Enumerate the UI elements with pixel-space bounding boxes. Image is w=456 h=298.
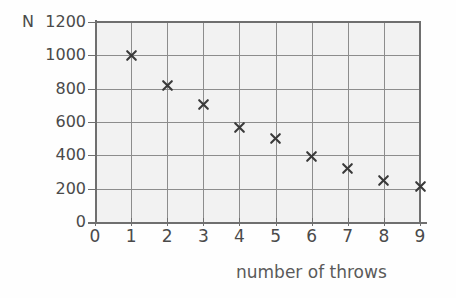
- gridline-horizontal: [95, 189, 420, 190]
- gridline-vertical: [384, 22, 385, 222]
- y-axis-tick: [88, 55, 96, 56]
- x-axis-tick: [167, 218, 168, 226]
- gridline-horizontal: [95, 122, 420, 123]
- x-axis-tick-label: 0: [83, 228, 107, 245]
- data-point-marker: [305, 150, 318, 163]
- plot-frame-top: [95, 21, 421, 23]
- x-axis-tick-label: 8: [372, 228, 396, 245]
- gridline-vertical: [312, 22, 313, 222]
- gridline-horizontal: [95, 155, 420, 156]
- x-axis-tick-label: 1: [119, 228, 143, 245]
- y-axis-tick-label: 800: [26, 81, 86, 97]
- x-axis-tick: [131, 218, 132, 226]
- x-axis-tick-label: 5: [264, 228, 288, 245]
- gridline-vertical: [167, 22, 168, 222]
- plot-area: [95, 22, 420, 222]
- data-point-marker: [233, 121, 246, 134]
- x-axis-tick-label: 6: [300, 228, 324, 245]
- gridline-horizontal: [95, 89, 420, 90]
- x-axis-title: number of throws: [236, 264, 387, 281]
- data-point-marker: [269, 132, 282, 145]
- x-axis-tick: [95, 218, 96, 226]
- y-axis-tick-label: 0: [26, 214, 86, 230]
- y-axis-tick-label: 200: [26, 181, 86, 197]
- x-axis-tick: [239, 218, 240, 226]
- gridline-vertical: [276, 22, 277, 222]
- gridline-vertical: [348, 22, 349, 222]
- x-axis-tick: [420, 218, 421, 226]
- y-axis-tick-label: 1000: [26, 47, 86, 63]
- plot-frame-right: [419, 21, 421, 223]
- x-axis-line: [88, 222, 427, 224]
- x-axis-tick-label: 9: [408, 228, 432, 245]
- data-point-marker: [414, 180, 427, 193]
- y-axis-tick: [88, 22, 96, 23]
- gridline-vertical: [203, 22, 204, 222]
- data-point-marker: [197, 98, 210, 111]
- y-axis-tick: [88, 122, 96, 123]
- y-axis-tick: [88, 155, 96, 156]
- x-axis-tick: [312, 218, 313, 226]
- x-axis-tick-label: 2: [155, 228, 179, 245]
- gridline-horizontal: [95, 55, 420, 56]
- x-axis-tick: [276, 218, 277, 226]
- y-axis-tick-label: 600: [26, 114, 86, 130]
- x-axis-tick: [203, 218, 204, 226]
- x-axis-tick-label: 4: [227, 228, 251, 245]
- data-point-marker: [341, 162, 354, 175]
- data-point-marker: [377, 174, 390, 187]
- y-axis-tick-label: 1200: [26, 14, 86, 30]
- scatter-chart-figure: N 020040060080010001200 0123456789 numbe…: [0, 0, 456, 298]
- data-point-marker: [161, 79, 174, 92]
- data-point-marker: [125, 49, 138, 62]
- x-axis-tick: [384, 218, 385, 226]
- y-axis-tick: [88, 189, 96, 190]
- x-axis-tick-label: 3: [191, 228, 215, 245]
- x-axis-tick-label: 7: [336, 228, 360, 245]
- x-axis-tick: [348, 218, 349, 226]
- y-axis-tick: [88, 89, 96, 90]
- y-axis-tick-label: 400: [26, 147, 86, 163]
